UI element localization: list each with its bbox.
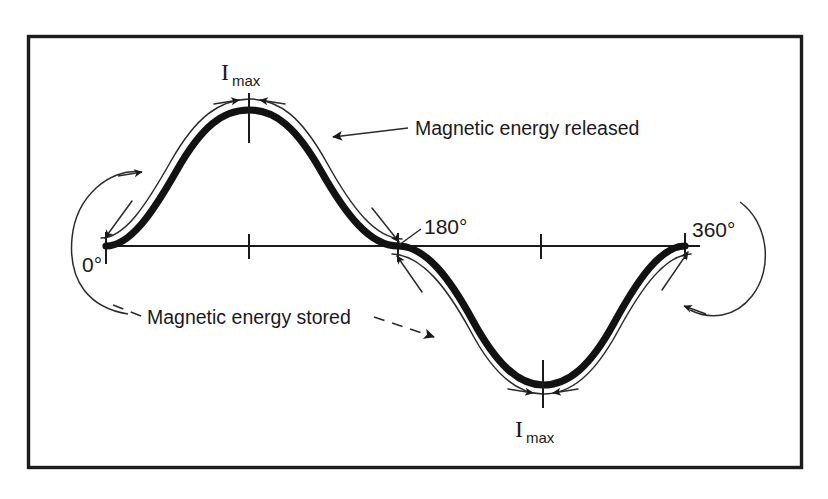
released-leader-line [333, 128, 408, 137]
arrow-to-360 [662, 252, 688, 290]
figure-canvas: Magnetic energy released Magnetic energy… [0, 0, 828, 499]
label-360-degrees: 360° [692, 218, 735, 241]
imax-peak-subscript: max [232, 72, 261, 89]
stored-leader-dash-right [374, 317, 434, 337]
label-180-leader [399, 229, 421, 245]
label-0-degrees: 0° [82, 253, 102, 276]
arrow-to-trough-left [508, 389, 533, 393]
label-magnetic-energy-stored: Magnetic energy stored [147, 306, 351, 328]
sine-wave-diagram: Magnetic energy released Magnetic energy… [0, 0, 828, 499]
imax-peak-symbol: I [221, 59, 229, 85]
label-180-degrees: 180° [424, 215, 467, 238]
sine-wave-curve [106, 110, 685, 385]
imax-trough-subscript: max [526, 429, 555, 446]
arrow-to-180-from-below [397, 256, 422, 292]
label-magnetic-energy-released: Magnetic energy released [415, 117, 639, 139]
label-imax-peak: I max [221, 59, 261, 89]
imax-trough-symbol: I [515, 416, 523, 442]
companion-trace-descend [392, 254, 543, 394]
label-imax-trough: I max [515, 416, 555, 446]
